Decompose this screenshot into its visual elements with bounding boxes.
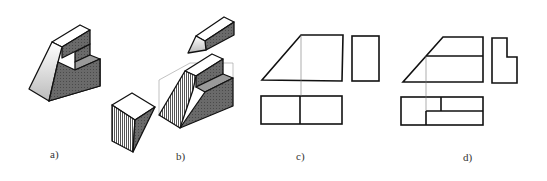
panel-d-orthographic — [401, 37, 517, 125]
d-front-view — [403, 37, 483, 82]
panel-c-orthographic — [261, 35, 379, 124]
label-b: b) — [176, 150, 185, 162]
c-front-view — [262, 35, 343, 81]
c-top-view — [261, 96, 342, 124]
c-side-view — [352, 36, 379, 81]
d-side-view — [492, 38, 517, 83]
label-a: a) — [50, 148, 59, 160]
panel-b-exploded — [112, 17, 234, 152]
label-c: c) — [296, 150, 305, 162]
panel-a-isometric — [29, 25, 100, 101]
label-d: d) — [463, 151, 472, 163]
